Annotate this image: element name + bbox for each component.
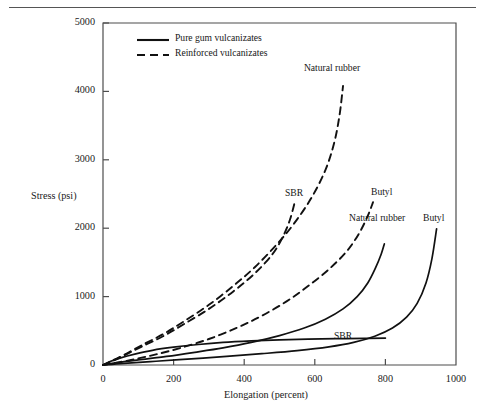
axes-frame xyxy=(103,23,456,365)
x-tick-label-1000: 1000 xyxy=(426,373,485,384)
annotation-butyl-pure-gum: Butyl xyxy=(423,212,444,223)
y-tick-label-2000: 2000 xyxy=(0,221,95,232)
x-tick-label-600: 600 xyxy=(285,373,345,384)
y-axis-title: Stress (psi) xyxy=(31,190,77,201)
x-tick-label-400: 400 xyxy=(214,373,274,384)
chart-canvas xyxy=(0,0,485,418)
legend-swatches xyxy=(137,40,169,55)
x-tick-label-800: 800 xyxy=(355,373,415,384)
x-tick-label-200: 200 xyxy=(144,373,204,384)
y-tick-label-1000: 1000 xyxy=(0,290,95,301)
legend-label-pure-gum-line1: Pure gum vulcanizates xyxy=(175,33,262,44)
y-tick-label-4000: 4000 xyxy=(0,84,95,95)
legend-label-reinforced-line1: Reinforced vulcanizates xyxy=(175,48,267,59)
annotation-butyl-reinforced: Butyl xyxy=(371,186,392,197)
series-line-butyl-reinforced xyxy=(103,202,373,365)
series-line-butyl-pure-gum xyxy=(103,229,437,365)
y-tick-label-5000: 5000 xyxy=(0,16,95,27)
legend-item-reinforced: Reinforced vulcanizates xyxy=(175,48,267,59)
annotation-sbr-pure-gum: SBR xyxy=(334,330,352,341)
x-tick-label-0: 0 xyxy=(73,373,133,384)
y-tick-label-0: 0 xyxy=(0,358,95,369)
annotation-natural-rubber-reinforced: Natural rubber xyxy=(303,62,361,73)
figure-root: Pure gum vulcanizates Reinforced vulcani… xyxy=(0,0,485,418)
axis-ticks xyxy=(103,23,385,365)
series-line-natural-rubber-reinforced xyxy=(103,86,343,365)
y-tick-label-3000: 3000 xyxy=(0,153,95,164)
x-axis-title: Elongation (percent) xyxy=(224,389,308,400)
series-line-natural-rubber-pure-gum xyxy=(103,244,384,365)
annotation-natural-rubber-pure-gum: Natural rubber xyxy=(349,212,403,223)
series-layer xyxy=(103,86,437,365)
annotation-sbr-reinforced: SBR xyxy=(285,187,303,198)
legend-item-pure-gum: Pure gum vulcanizates xyxy=(175,33,262,44)
